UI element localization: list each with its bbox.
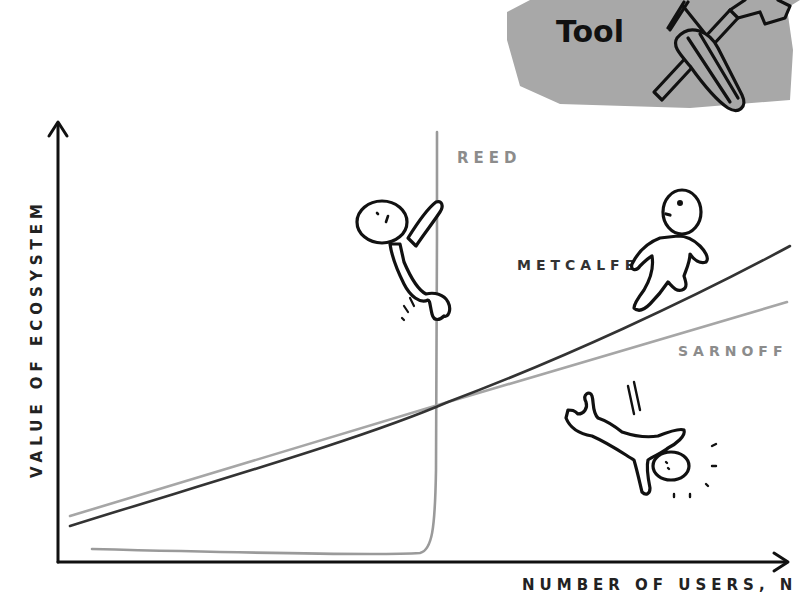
sarnoff-label: SARNOFF	[678, 343, 787, 359]
x-axis-label: NUMBER OF USERS, N	[522, 576, 797, 594]
badge-label: Tool	[556, 14, 624, 49]
metcalfe-label: METCALFE	[517, 257, 639, 273]
tool-badge: Tool	[507, 0, 800, 110]
reed-label: REED	[457, 149, 522, 167]
walking-figure-icon	[632, 190, 708, 310]
y-axis-label: VALUE OF ECOSYSTEM	[28, 199, 46, 478]
falling-figure-icon	[566, 382, 716, 497]
reed-line	[92, 132, 437, 554]
